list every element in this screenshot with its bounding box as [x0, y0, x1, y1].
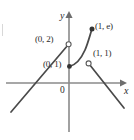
- label-point-0-1: (0, 1): [43, 60, 61, 69]
- graph-canvas: [0, 0, 134, 140]
- y-axis-label: y: [60, 11, 64, 21]
- label-point-1-1: (1, 1): [93, 49, 111, 58]
- origin-label: 0: [60, 86, 65, 96]
- open-circle-point-0-2: [66, 42, 71, 47]
- y-axis-arrowhead: [65, 11, 72, 18]
- label-point-0-2: (0, 2): [35, 35, 53, 44]
- right-linear-branch: [90, 65, 125, 109]
- label-point-1-e: (1, e): [95, 22, 113, 31]
- left-linear-branch: [11, 45, 68, 112]
- x-axis-label: x: [124, 86, 128, 96]
- open-circle-point-1-1: [86, 61, 91, 66]
- filled-point-1-e: [90, 27, 95, 32]
- function-graph-figure: (0, 2) (0, 1) (1, e) (1, 1) y x 0: [0, 0, 134, 140]
- filled-point-0-1: [67, 64, 72, 69]
